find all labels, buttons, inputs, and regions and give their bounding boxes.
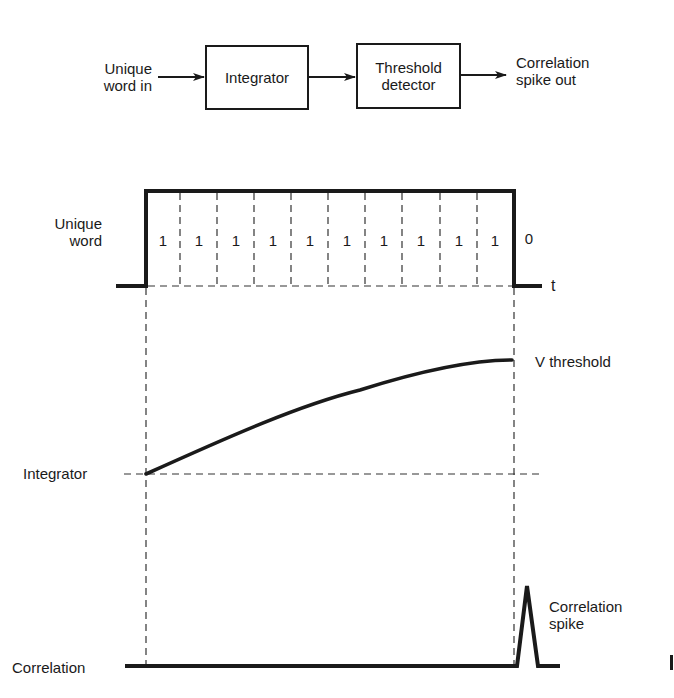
- unique-word-label-line2: word: [40, 232, 102, 249]
- vertical-guides: [146, 288, 514, 666]
- bit-value: 1: [263, 232, 283, 249]
- input-label-line2: word in: [60, 77, 152, 94]
- integrator-label: Integrator: [23, 465, 87, 482]
- spike-label-line2: spike: [549, 615, 622, 632]
- correlation-spike-label: Correlation spike: [549, 598, 622, 632]
- threshold-block-label-line2: detector: [381, 76, 435, 93]
- correlation-waveform: [125, 586, 560, 666]
- integrator-block-label: Integrator: [225, 69, 289, 86]
- threshold-detector-block: Threshold detector: [356, 43, 461, 109]
- input-label: Unique word in: [60, 60, 152, 94]
- unique-word-label-line1: Unique: [40, 215, 102, 232]
- threshold-block-label-line1: Threshold: [375, 59, 442, 76]
- trailing-bit-value: 0: [519, 230, 539, 247]
- cropped-edge-glyph: [670, 655, 673, 670]
- spike-label-line1: Correlation: [549, 598, 622, 615]
- bit-value: 1: [189, 232, 209, 249]
- integrator-ramp-curve: [146, 360, 512, 474]
- bit-value: 1: [485, 232, 505, 249]
- output-label-line2: spike out: [516, 71, 589, 88]
- diagram-graphics: [0, 0, 674, 698]
- bit-value: 1: [153, 232, 173, 249]
- bit-value: 1: [411, 232, 431, 249]
- bit-value: 1: [449, 232, 469, 249]
- input-label-line1: Unique: [60, 60, 152, 77]
- correlation-label: Correlation: [12, 659, 85, 676]
- output-label: Correlation spike out: [516, 54, 589, 88]
- unique-word-label: Unique word: [40, 215, 102, 249]
- bit-value: 1: [300, 232, 320, 249]
- time-axis-label: t: [551, 277, 555, 294]
- bit-value: 1: [226, 232, 246, 249]
- bit-value: 1: [374, 232, 394, 249]
- threshold-label: V threshold: [535, 353, 611, 370]
- output-label-line1: Correlation: [516, 54, 589, 71]
- bit-value: 1: [337, 232, 357, 249]
- integrator-block: Integrator: [205, 45, 309, 110]
